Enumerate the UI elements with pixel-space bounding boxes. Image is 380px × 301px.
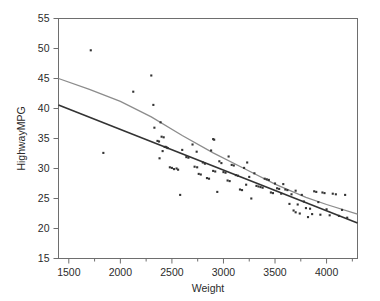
x-axis-tick-label: 2000 [109, 266, 133, 278]
data-point [286, 189, 288, 191]
data-point [220, 162, 222, 164]
data-point [173, 168, 175, 170]
y-axis-tick-label: 25 [38, 192, 50, 204]
y-axis-tick-label: 50 [38, 42, 50, 54]
data-point [264, 178, 266, 180]
data-point [282, 183, 284, 185]
data-point [208, 178, 210, 180]
data-point [196, 166, 198, 168]
data-point [161, 136, 163, 138]
data-point [284, 188, 286, 190]
data-point [295, 211, 297, 213]
data-point [305, 207, 307, 209]
data-point [160, 121, 162, 123]
data-point [274, 182, 276, 184]
data-point [150, 74, 152, 76]
data-point [295, 190, 297, 192]
data-point [235, 174, 237, 176]
data-point [167, 147, 169, 149]
data-point [309, 208, 311, 210]
data-point [307, 216, 309, 218]
data-point [288, 203, 290, 205]
data-point [187, 157, 189, 159]
data-point [297, 203, 299, 205]
data-point [191, 143, 193, 145]
data-point [341, 209, 343, 211]
data-point [248, 176, 250, 178]
scatter-plot-figure: 1520253035404550551500200025003000350040… [0, 0, 380, 301]
data-point [185, 156, 187, 158]
data-point [338, 215, 340, 217]
data-point [202, 161, 204, 163]
x-axis-tick-label: 4000 [315, 266, 339, 278]
data-point [293, 209, 295, 211]
y-axis-tick-label: 20 [38, 222, 50, 234]
data-point [299, 212, 301, 214]
x-axis-tick-label: 3000 [212, 266, 236, 278]
data-point [317, 201, 319, 203]
data-point [153, 127, 155, 129]
y-axis-tick-label: 30 [38, 162, 50, 174]
y-axis-tick-label: 35 [38, 132, 50, 144]
data-point [198, 173, 200, 175]
data-point [280, 193, 282, 195]
data-point [323, 192, 325, 194]
data-point [257, 185, 259, 187]
data-point [194, 166, 196, 168]
data-point [290, 193, 292, 195]
data-point [319, 214, 321, 216]
data-point [163, 136, 165, 138]
data-point [241, 189, 243, 191]
data-point [239, 188, 241, 190]
data-point [224, 172, 226, 174]
data-point [218, 160, 220, 162]
data-point [301, 194, 303, 196]
data-point [272, 192, 274, 194]
data-point [313, 190, 315, 192]
smoothed-fit-line [59, 79, 358, 215]
data-point [196, 151, 198, 153]
y-axis-tick-label: 40 [38, 102, 50, 114]
data-point [250, 197, 252, 199]
x-axis-title: Weight [192, 282, 225, 294]
data-point [246, 161, 248, 163]
data-point [344, 194, 346, 196]
data-point [233, 164, 235, 166]
data-point [213, 139, 215, 141]
data-point [315, 191, 317, 193]
data-point [132, 91, 134, 93]
data-point [321, 191, 323, 193]
chart-canvas: 1520253035404550551500200025003000350040… [0, 0, 380, 301]
data-point [335, 193, 337, 195]
data-point [329, 214, 331, 216]
data-point [102, 152, 104, 154]
data-point [181, 149, 183, 151]
data-point [253, 172, 255, 174]
data-point [177, 169, 179, 171]
data-point [262, 187, 264, 189]
data-point [268, 179, 270, 181]
data-point [276, 187, 278, 189]
data-point [229, 180, 231, 182]
x-axis-tick-label: 3500 [263, 266, 287, 278]
data-point [332, 193, 334, 195]
data-point [228, 155, 230, 157]
data-point [222, 171, 224, 173]
data-point [171, 167, 173, 169]
data-point [237, 175, 239, 177]
linear-regression-fit-line [59, 105, 358, 223]
data-point [200, 173, 202, 175]
data-point [179, 194, 181, 196]
data-point [266, 178, 268, 180]
data-point [158, 140, 160, 142]
data-point [90, 49, 92, 51]
data-point [260, 186, 262, 188]
data-point [243, 167, 245, 169]
data-point [255, 185, 257, 187]
data-point [169, 166, 171, 168]
data-point [214, 170, 216, 172]
y-axis-tick-label: 15 [38, 252, 50, 264]
data-point [210, 149, 212, 151]
data-point [162, 150, 164, 152]
x-axis-tick-label: 2500 [160, 266, 184, 278]
